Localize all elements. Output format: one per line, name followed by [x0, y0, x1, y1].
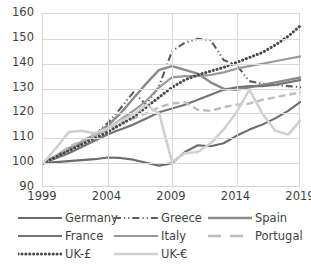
legend-swatch-portugal-icon	[208, 230, 252, 242]
legend-label: Greece	[161, 212, 202, 224]
legend-item-italy[interactable]: Italy	[114, 228, 186, 244]
line-chart: 16015014013012011010090 1999200420092014…	[0, 0, 311, 266]
gridline-horizontal	[43, 39, 299, 40]
y-tick-label: 160	[12, 7, 34, 18]
gridline-horizontal	[43, 163, 299, 164]
legend-swatch-uk-icon	[114, 248, 158, 260]
legend-item-france[interactable]: France	[18, 228, 103, 244]
legend-label: Portugal	[255, 230, 303, 242]
legend-swatch-germany-icon	[18, 212, 62, 224]
gridline-horizontal	[43, 138, 299, 139]
y-tick-label: 140	[12, 57, 34, 68]
legend-label: Spain	[255, 212, 287, 224]
legend-swatch-france-icon	[18, 230, 62, 242]
y-tick-label: 120	[12, 106, 34, 117]
gridline-horizontal	[43, 89, 299, 90]
x-tick-label: 2009	[151, 190, 191, 202]
x-axis-tick-labels: 19992004200920142019	[0, 190, 311, 208]
x-tick-label: 2004	[87, 190, 127, 202]
x-tick-label: 2014	[216, 190, 256, 202]
legend-swatch-italy-icon	[114, 230, 158, 242]
legend-label: UK-£	[65, 248, 91, 260]
y-tick-label: 150	[12, 32, 34, 43]
legend-item-uk[interactable]: UK-£	[18, 246, 91, 262]
chart-legend: GermanyGreeceSpainFranceItalyPortugalUK-…	[18, 210, 303, 264]
legend-item-greece[interactable]: Greece	[114, 210, 202, 226]
legend-label: UK-€	[161, 248, 187, 260]
gridline-vertical	[237, 14, 238, 186]
legend-item-portugal[interactable]: Portugal	[208, 228, 303, 244]
legend-item-germany[interactable]: Germany	[18, 210, 118, 226]
y-tick-label: 130	[12, 82, 34, 93]
x-tick-label: 1999	[22, 190, 62, 202]
legend-item-spain[interactable]: Spain	[208, 210, 287, 226]
legend-swatch-uk-icon	[18, 248, 62, 260]
legend-label: France	[65, 230, 103, 242]
x-tick-label: 2019	[280, 190, 311, 202]
legend-label: Italy	[161, 230, 186, 242]
legend-item-uk[interactable]: UK-€	[114, 246, 187, 262]
gridline-horizontal	[43, 64, 299, 65]
gridline-horizontal	[43, 113, 299, 114]
y-tick-label: 110	[12, 131, 34, 142]
gridline-vertical	[108, 14, 109, 186]
plot-area	[42, 13, 300, 187]
legend-swatch-spain-icon	[208, 212, 252, 224]
legend-label: Germany	[65, 212, 118, 224]
legend-swatch-greece-icon	[114, 212, 158, 224]
y-tick-label: 100	[12, 156, 34, 167]
gridline-vertical	[172, 14, 173, 186]
